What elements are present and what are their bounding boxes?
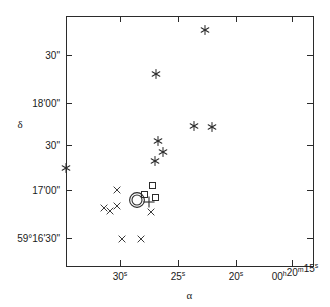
x-tick-label-0: 30s	[113, 270, 128, 282]
data-markers-group	[62, 26, 216, 243]
cross-sources-point-1	[101, 205, 107, 211]
square-sources-point-0	[150, 183, 155, 188]
cross-sources-point-0	[114, 187, 120, 193]
asterisk-sources-point-5	[154, 137, 162, 146]
cross-sources-point-2	[107, 208, 113, 214]
asterisk-sources-point-1	[152, 70, 160, 79]
plot-border	[67, 17, 314, 267]
x-tick-label-3: 00h20m15s	[272, 262, 319, 282]
y-tick-label-2: 30"	[45, 140, 60, 151]
astronomy-scatter-figure: 30s25s20s00h20m15s 30"18'00"30"17'00"59°…	[0, 0, 330, 307]
double-circle-source-point-0	[130, 193, 145, 208]
axes-frame	[67, 17, 314, 267]
cross-sources-point-6	[138, 236, 144, 242]
y-axis-title: δ	[17, 118, 22, 130]
asterisk-sources-point-6	[159, 148, 167, 157]
y-tick-label-0: 30"	[45, 50, 60, 61]
x-axis-title: α	[187, 289, 193, 301]
x-tick-label-2: 20s	[229, 270, 244, 282]
cross-sources-point-4	[148, 209, 154, 215]
plot-canvas: 30s25s20s00h20m15s 30"18'00"30"17'00"59°…	[0, 0, 330, 307]
y-axis-tick-labels: 30"18'00"30"17'00"59°16'30"	[17, 50, 60, 244]
x-tick-label-1: 25s	[171, 270, 186, 282]
asterisk-sources-point-3	[190, 122, 198, 131]
y-axis-ticks	[66, 56, 313, 239]
x-axis-ticks	[121, 16, 293, 266]
y-tick-label-1: 18'00"	[32, 98, 60, 109]
cross-sources-point-3	[114, 203, 120, 209]
x-axis-tick-labels: 30s25s20s00h20m15s	[113, 262, 319, 282]
asterisk-sources-point-0	[201, 26, 209, 35]
asterisk-sources-point-2	[62, 164, 70, 173]
cross-sources-point-5	[119, 236, 125, 242]
square-sources-point-2	[153, 195, 158, 200]
y-tick-label-3: 17'00"	[32, 185, 60, 196]
y-tick-label-4: 59°16'30"	[17, 233, 60, 244]
asterisk-sources-point-7	[151, 157, 159, 166]
asterisk-sources-point-4	[208, 123, 216, 132]
